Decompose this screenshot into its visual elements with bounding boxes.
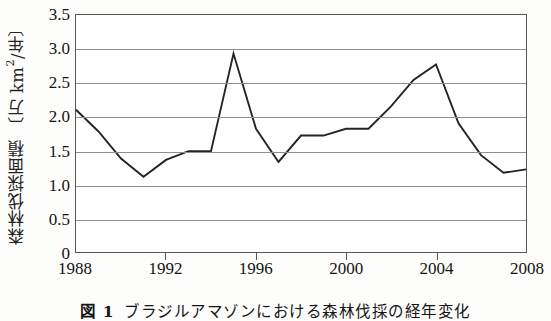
y-axis-title-text: 森林伐採面積 〔万 km2/年〕 xyxy=(4,18,30,245)
x-tick-label: 2004 xyxy=(420,259,454,279)
gridline-y-2.0 xyxy=(76,117,526,118)
y-tick-label: 3.0 xyxy=(49,40,70,57)
figure-container: 森林伐採面積 〔万 km2/年〕 00.51.01.52.02.53.03.5 … xyxy=(0,0,551,321)
y-tick-label: 1.5 xyxy=(49,142,70,159)
figure-caption: 図 1ブラジルアマゾンにおける森林伐採の経年変化 xyxy=(0,299,551,321)
y-axis-title-superscript: 2 xyxy=(4,59,17,67)
figure-number: 図 1 xyxy=(80,302,114,321)
y-tick-label: 0.5 xyxy=(49,210,70,227)
y-tick-label: 3.5 xyxy=(49,6,70,23)
plot-area xyxy=(75,14,527,253)
y-tick-label: 2.0 xyxy=(49,108,70,125)
y-axis-tick-labels: 00.51.01.52.02.53.03.5 xyxy=(30,0,74,262)
y-axis-title: 森林伐採面積 〔万 km2/年〕 xyxy=(0,0,34,262)
x-tick-label: 1996 xyxy=(239,259,273,279)
gridline-y-0.5 xyxy=(76,220,526,221)
y-tick-label: 1.0 xyxy=(49,176,70,193)
data-series-svg xyxy=(76,15,526,252)
x-tick-label: 1988 xyxy=(58,259,92,279)
x-tick-label: 2008 xyxy=(510,259,544,279)
x-tick-label: 2000 xyxy=(329,259,363,279)
figure-caption-text: ブラジルアマゾンにおける森林伐採の経年変化 xyxy=(124,303,471,321)
gridline-y-3.0 xyxy=(76,49,526,50)
gridline-y-2.5 xyxy=(76,83,526,84)
y-axis-title-suffix: /年〕 xyxy=(8,18,27,59)
deforestation-line xyxy=(76,54,526,177)
y-axis-title-prefix: 森林伐採面積 〔万 km xyxy=(8,66,27,244)
y-tick-label: 2.5 xyxy=(49,74,70,91)
gridline-y-1.0 xyxy=(76,186,526,187)
x-tick-label: 1992 xyxy=(148,259,182,279)
gridline-y-1.5 xyxy=(76,152,526,153)
